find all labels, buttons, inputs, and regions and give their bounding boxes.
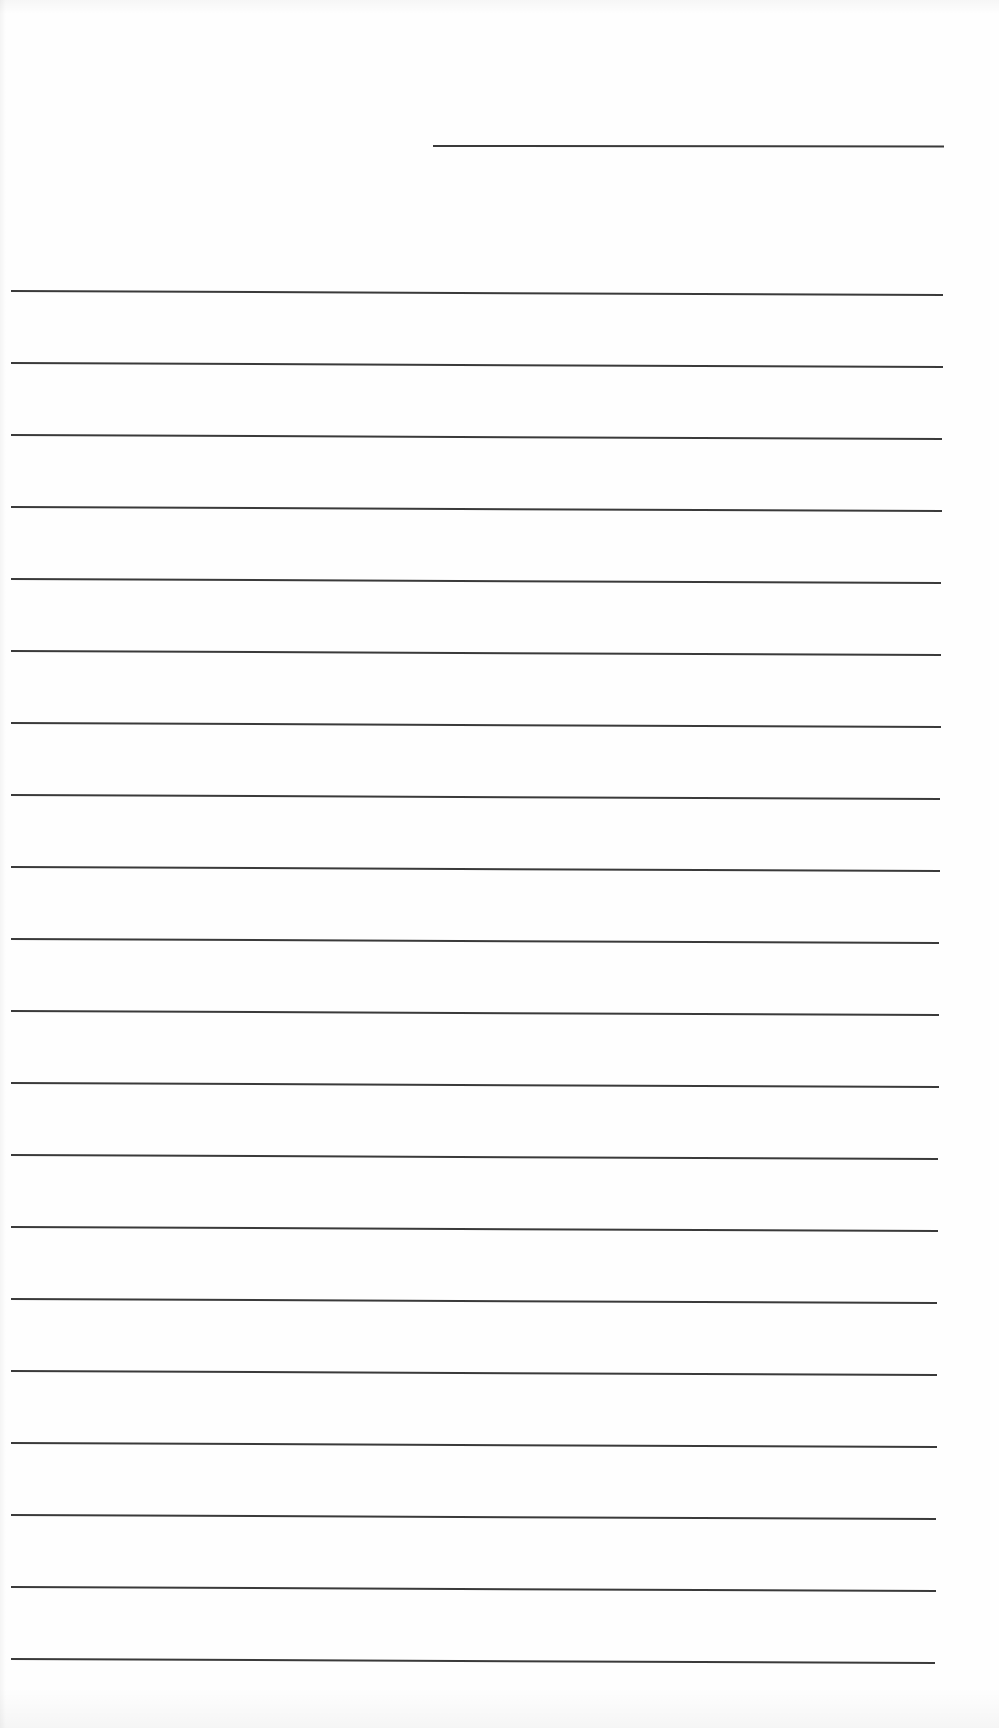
ruled-line xyxy=(11,1658,935,1664)
ruled-line xyxy=(11,1226,938,1232)
ruled-line xyxy=(11,794,940,800)
ruled-line xyxy=(11,1442,937,1448)
ruled-line xyxy=(11,722,941,728)
ruled-line xyxy=(11,362,943,368)
ruled-line xyxy=(11,1082,939,1088)
ruled-line xyxy=(11,1298,937,1304)
ruled-line xyxy=(11,1586,936,1592)
ruled-line xyxy=(11,1370,937,1376)
ruled-lines xyxy=(0,0,999,1728)
lined-paper-page xyxy=(0,0,999,1728)
bottom-edge-shadow xyxy=(0,1688,999,1728)
ruled-line xyxy=(11,938,939,944)
ruled-line xyxy=(11,578,941,584)
ruled-line xyxy=(11,650,941,656)
ruled-line xyxy=(11,1010,939,1016)
ruled-line xyxy=(11,866,940,872)
ruled-line xyxy=(11,1154,938,1160)
ruled-line xyxy=(11,1514,936,1520)
ruled-line xyxy=(11,290,943,296)
ruled-line xyxy=(11,506,942,512)
ruled-line xyxy=(11,434,942,440)
